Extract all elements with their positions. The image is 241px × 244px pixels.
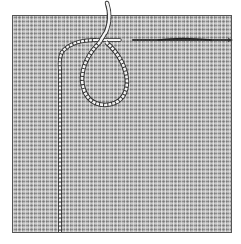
cord-top-end bbox=[100, 3, 109, 42]
cord-vertical bbox=[60, 40, 96, 232]
needle-icon bbox=[133, 38, 233, 42]
cord-and-needle bbox=[0, 0, 241, 244]
cord-loop bbox=[82, 42, 127, 105]
